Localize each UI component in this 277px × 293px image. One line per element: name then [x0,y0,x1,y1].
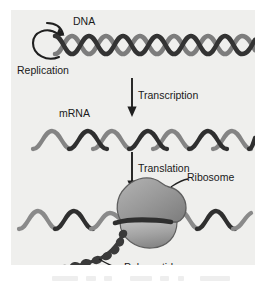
figure-root: DNA Replication Transcription mRNA Tr [0,0,277,293]
caption-remnant [52,276,230,283]
polypeptide-leader-line-icon [99,259,124,265]
polypeptide-chain-icon [58,228,129,265]
ribosome-label: Ribosome [187,172,234,183]
transcription-label: Transcription [138,90,198,101]
diagram-panel: DNA Replication Transcription mRNA Tr [11,10,255,265]
ribosome-icon [115,178,186,248]
dna-label: DNA [73,16,95,27]
replication-label: Replication [17,65,69,76]
dna-row [11,10,255,70]
mrna-strand-icon [11,122,255,156]
polypeptide-label: Polypeptide [124,262,179,265]
ribosome-leader-line-icon [171,179,188,187]
dna-double-helix-icon [55,36,255,54]
mrna-label: mRNA [59,108,90,119]
